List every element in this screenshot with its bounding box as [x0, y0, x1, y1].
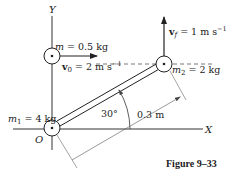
origin-label: O	[35, 134, 43, 145]
vf-label: vf = 1 m s−1	[168, 25, 227, 39]
dimension-extension-line-origin	[57, 135, 77, 168]
mass-m2-label: m2 = 2 kg	[172, 64, 220, 77]
v0-label: v0 = 2 m s−1	[61, 60, 122, 74]
particle-m-label: m = 0.5 kg	[55, 41, 108, 52]
figure-caption: Figure 9–33	[166, 158, 217, 169]
length-label: 0.3 m	[137, 109, 164, 120]
mass-m2	[156, 56, 172, 72]
y-axis-label: Y	[49, 4, 57, 15]
x-axis-label: X	[204, 124, 213, 135]
figure-9-33-diagram: Y X O m = 0.5 kg v0 = 2 m s−1 vf = 1 m s…	[0, 0, 237, 182]
angle-label: 30°	[101, 108, 118, 119]
angle-arc	[119, 90, 130, 129]
